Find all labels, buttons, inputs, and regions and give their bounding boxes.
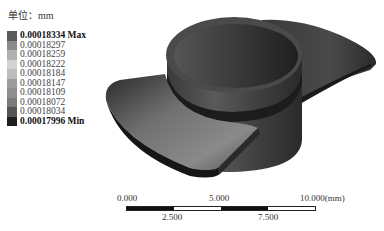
cylinder-opening: [174, 24, 298, 88]
unit-label: 单位：mm: [8, 7, 54, 22]
legend-swatch: [7, 31, 17, 41]
legend-swatch: [7, 117, 17, 127]
scale-segment: [221, 207, 268, 210]
legend-swatch: [7, 107, 17, 117]
scale-segment: [174, 207, 221, 210]
legend-swatch: [7, 88, 17, 98]
legend-row: 0.00017996 Min: [7, 117, 86, 127]
legend-value-min: 0.00017996 Min: [20, 117, 84, 127]
legend-swatch: [7, 60, 17, 70]
legend-swatch: [7, 79, 17, 89]
scale-label-0: 0.000: [117, 193, 137, 203]
scale-label-2-5: 2.500: [162, 212, 182, 222]
3d-model-view[interactable]: [100, 0, 384, 185]
legend-swatch: [7, 98, 17, 108]
color-legend: 0.00018334 Max 0.00018297 0.00018259 0.0…: [7, 31, 86, 126]
scale-bar: [126, 206, 316, 211]
scale-label-10: 10.000(mm): [300, 193, 345, 203]
legend-swatch: [7, 50, 17, 60]
legend-swatch: [7, 69, 17, 79]
scale-label-7-5: 7.500: [258, 212, 278, 222]
scale-segment: [268, 207, 315, 210]
scale-label-5: 5.000: [209, 193, 229, 203]
legend-swatch: [7, 41, 17, 51]
scale-segment: [127, 207, 174, 210]
